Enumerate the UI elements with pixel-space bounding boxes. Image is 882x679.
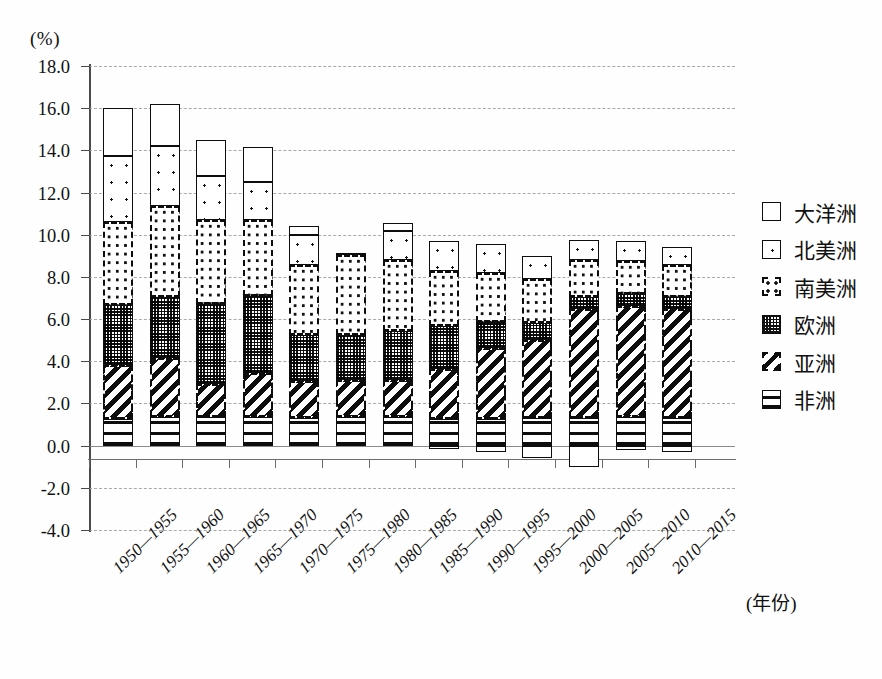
bar-segment-europe: [569, 297, 599, 309]
bar-segment-asia: [616, 306, 646, 417]
x-axis-tick: [602, 459, 603, 468]
legend-item-namerica[interactable]: 北美洲: [762, 231, 857, 269]
legend-label: 欧洲: [794, 309, 836, 339]
bar-stack[interactable]: [522, 66, 552, 530]
legend-item-samerica[interactable]: 南美洲: [762, 268, 857, 306]
bar-stack[interactable]: [383, 66, 413, 530]
legend-swatch-africa-icon: [762, 390, 781, 409]
bar-segment-samerica: [662, 265, 692, 297]
bar-segment-samerica: [569, 260, 599, 297]
legend-swatch-samerica-icon: [762, 277, 781, 296]
bar-segment-africa: [150, 417, 180, 445]
bar-segment-oceania: [476, 446, 506, 452]
bar-segment-namerica: [289, 235, 319, 266]
bar-segment-oceania: [522, 446, 552, 459]
bar-stack[interactable]: [196, 66, 226, 530]
bar-segment-samerica: [616, 261, 646, 294]
bar-segment-europe: [429, 326, 459, 368]
y-axis-tick: 14.0: [81, 150, 90, 151]
bar-segment-namerica: [383, 231, 413, 261]
legend-item-asia[interactable]: 亚洲: [762, 343, 857, 381]
bar-stack[interactable]: [243, 66, 273, 530]
bar-segment-oceania: [336, 253, 366, 255]
bar-stack[interactable]: [476, 66, 506, 530]
bar-stack[interactable]: [150, 66, 180, 530]
bar-segment-asia: [196, 384, 226, 417]
bar-segment-asia: [569, 309, 599, 419]
bar-segment-africa: [196, 417, 226, 445]
bar-segment-africa: [336, 417, 366, 445]
bar-segment-asia: [429, 369, 459, 420]
y-axis-tick: 6.0: [81, 319, 90, 320]
x-axis-tick: [229, 459, 230, 468]
bar-segment-oceania: [569, 446, 599, 467]
bar-segment-africa: [476, 419, 506, 445]
bar-stack[interactable]: [616, 66, 646, 530]
y-axis-tick: 4.0: [81, 361, 90, 362]
bar-stack[interactable]: [289, 66, 319, 530]
y-axis-tick: 2.0: [81, 403, 90, 404]
bar-segment-europe: [150, 297, 180, 358]
legend-label: 亚洲: [794, 347, 836, 377]
bar-segment-europe: [336, 335, 366, 380]
gridline: [89, 530, 735, 531]
x-axis-tick: [508, 459, 509, 468]
bar-segment-africa: [383, 417, 413, 445]
y-axis-tick-label: 6.0: [47, 310, 70, 331]
legend-swatch-namerica-icon: [762, 240, 781, 259]
bar-segment-oceania: [383, 223, 413, 230]
legend-item-oceania[interactable]: 大洋洲: [762, 193, 857, 231]
bar-segment-europe: [616, 294, 646, 307]
bar-stack[interactable]: [429, 66, 459, 530]
bar-segment-samerica: [336, 255, 366, 335]
x-axis-tick: [462, 459, 463, 468]
bar-segment-samerica: [150, 206, 180, 297]
x-axis-title: (年份): [746, 588, 797, 615]
bar-segment-asia: [336, 380, 366, 417]
plot-area: 18.016.014.012.010.08.06.04.02.00.0-2.0-…: [89, 66, 735, 530]
y-axis-tick: 0.0: [81, 446, 90, 447]
y-axis-tick: -2.0: [81, 488, 90, 489]
bar-segment-oceania: [616, 446, 646, 450]
bar-segment-africa: [662, 418, 692, 445]
chart-canvas: (%) 18.016.014.012.010.08.06.04.02.00.0-…: [0, 0, 882, 679]
x-axis-tick: [648, 459, 649, 468]
bar-stack[interactable]: [662, 66, 692, 530]
bar-segment-namerica: [196, 176, 226, 220]
x-axis-tick: [415, 459, 416, 468]
bar-segment-namerica: [243, 182, 273, 220]
legend-swatch-asia-icon: [762, 352, 781, 371]
x-axis-tick: [369, 459, 370, 468]
bar-segment-oceania: [289, 226, 319, 234]
bar-stack[interactable]: [569, 66, 599, 530]
bar-segment-namerica: [616, 241, 646, 261]
bar-segment-europe: [196, 304, 226, 384]
bar-segment-oceania: [662, 446, 692, 452]
y-axis-tick-label: 14.0: [38, 141, 70, 162]
bar-segment-samerica: [196, 220, 226, 304]
bar-segment-namerica: [522, 256, 552, 279]
y-axis-tick: 16.0: [81, 108, 90, 109]
bar-segment-europe: [103, 305, 133, 365]
bar-segment-europe: [522, 323, 552, 340]
y-axis-tick-label: 12.0: [38, 183, 70, 204]
bar-segment-asia: [383, 380, 413, 417]
y-axis-tick-label: 10.0: [38, 225, 70, 246]
legend-item-europe[interactable]: 欧洲: [762, 306, 857, 344]
bar-stack[interactable]: [103, 66, 133, 530]
bar-segment-africa: [103, 419, 133, 445]
bar-segment-samerica: [243, 220, 273, 296]
bar-segment-namerica: [476, 244, 506, 272]
bar-segment-asia: [289, 381, 319, 418]
bar-segment-namerica: [150, 146, 180, 206]
bar-segment-asia: [243, 373, 273, 417]
bar-segment-africa: [243, 417, 273, 445]
y-axis-tick-label: -4.0: [41, 521, 70, 542]
y-axis-tick: 12.0: [81, 193, 90, 194]
bar-segment-namerica: [569, 240, 599, 260]
bar-stack[interactable]: [336, 66, 366, 530]
legend-item-africa[interactable]: 非洲: [762, 381, 857, 419]
bar-segment-europe: [476, 322, 506, 347]
x-axis-tick: [182, 459, 183, 468]
bar-segment-oceania: [103, 108, 133, 155]
